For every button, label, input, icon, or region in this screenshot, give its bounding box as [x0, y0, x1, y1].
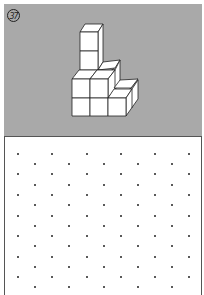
grid-dot — [171, 266, 173, 268]
grid-dot — [103, 286, 105, 288]
grid-dot — [34, 204, 36, 206]
grid-dot — [68, 266, 70, 268]
grid-dot — [120, 276, 122, 278]
grid-dot — [137, 163, 139, 165]
grid-dot — [171, 184, 173, 186]
grid-dot — [154, 235, 156, 237]
grid-dot — [51, 235, 53, 237]
grid-dot — [188, 173, 190, 175]
grid-dot — [68, 286, 70, 288]
grid-dot — [34, 163, 36, 165]
grid-dot — [154, 153, 156, 155]
grid-dot — [86, 235, 88, 237]
grid-dot — [51, 276, 53, 278]
grid-dot — [120, 256, 122, 258]
isometric-dot-grid — [0, 0, 204, 295]
grid-dot — [34, 266, 36, 268]
grid-dot — [171, 245, 173, 247]
grid-dot — [137, 204, 139, 206]
grid-dot — [188, 153, 190, 155]
grid-dot — [171, 286, 173, 288]
grid-dot — [120, 235, 122, 237]
grid-dot — [86, 173, 88, 175]
grid-dot — [34, 225, 36, 227]
grid-dot — [120, 215, 122, 217]
grid-dot — [17, 153, 19, 155]
grid-dot — [17, 235, 19, 237]
grid-dot — [120, 153, 122, 155]
grid-dot — [51, 215, 53, 217]
grid-dot — [34, 286, 36, 288]
grid-dot — [68, 245, 70, 247]
grid-dot — [120, 194, 122, 196]
grid-dot — [86, 215, 88, 217]
grid-dot — [86, 153, 88, 155]
grid-dot — [103, 266, 105, 268]
grid-dot — [103, 184, 105, 186]
grid-dot — [188, 215, 190, 217]
grid-dot — [68, 204, 70, 206]
grid-dot — [137, 266, 139, 268]
grid-dot — [188, 276, 190, 278]
grid-dot — [154, 194, 156, 196]
grid-dot — [86, 276, 88, 278]
grid-dot — [34, 245, 36, 247]
grid-dot — [171, 204, 173, 206]
grid-dot — [154, 215, 156, 217]
grid-dot — [17, 215, 19, 217]
grid-dot — [137, 286, 139, 288]
grid-dot — [137, 245, 139, 247]
grid-dot — [34, 184, 36, 186]
grid-dot — [17, 194, 19, 196]
grid-dot — [86, 256, 88, 258]
grid-dot — [103, 245, 105, 247]
grid-dot — [188, 256, 190, 258]
grid-dot — [17, 256, 19, 258]
grid-dot — [171, 225, 173, 227]
grid-dot — [17, 276, 19, 278]
grid-dot — [120, 173, 122, 175]
grid-dot — [103, 225, 105, 227]
grid-dot — [154, 256, 156, 258]
grid-dot — [188, 194, 190, 196]
grid-dot — [68, 225, 70, 227]
grid-dot — [137, 225, 139, 227]
grid-dot — [17, 173, 19, 175]
grid-dot — [188, 235, 190, 237]
grid-dot — [137, 184, 139, 186]
grid-dot — [103, 163, 105, 165]
grid-dot — [103, 204, 105, 206]
grid-dot — [171, 163, 173, 165]
grid-dot — [86, 194, 88, 196]
grid-dot — [68, 163, 70, 165]
grid-dot — [154, 173, 156, 175]
grid-dot — [51, 173, 53, 175]
grid-dot — [68, 184, 70, 186]
grid-dot — [51, 256, 53, 258]
grid-dot — [154, 276, 156, 278]
grid-dot — [51, 153, 53, 155]
grid-dot — [51, 194, 53, 196]
